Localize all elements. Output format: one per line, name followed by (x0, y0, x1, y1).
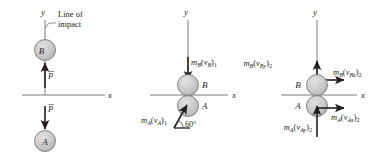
panel2-x-axis-label: x (231, 90, 236, 100)
panel1-x-axis-label: x (107, 90, 112, 100)
figure-svg: y x Line of impact B P P (0, 0, 384, 159)
panel2-ball-b (178, 75, 199, 96)
panel1-impulse-a-symbol: P (47, 104, 53, 114)
panel2-ball-a-label: A (201, 101, 208, 111)
panel3-momentum-ax-label: mA(vAx)2 (331, 112, 360, 123)
collision-momentum-figure: y x Line of impact B P P (0, 0, 384, 159)
panel2-angle-arc (179, 121, 183, 129)
panel3-ball-b-label: B (295, 80, 301, 90)
panel3-ball-a-label: A (294, 101, 301, 111)
panel1-ball-b-label: B (39, 46, 45, 56)
panel3-momentum-bx-label: mB(vBx)2 (333, 67, 362, 78)
panel2-ball-b-label: B (202, 80, 208, 90)
panel-before-impact: y x Line of impact B P P (22, 7, 112, 152)
panel2-momentum-b-label: mB(vB)1 (191, 57, 217, 68)
line-of-impact-leader (45, 23, 56, 28)
panel-initial-momentum: y x mB(vB)1 B A mA(vA)1 60° (141, 7, 236, 129)
line-of-impact-label-1: Line of (58, 9, 83, 19)
panel2-momentum-a-label: mA(vA)1 (141, 115, 167, 126)
panel3-ball-b (307, 75, 328, 96)
line-of-impact-label-2: impact (58, 19, 82, 29)
panel2-angle-label: 60° (185, 120, 196, 129)
panel1-impulse-b-symbol: P (47, 71, 53, 81)
panel3-momentum-by-label: mB(vBy)2 (243, 58, 272, 69)
panel1-impulse-b-label: P (47, 71, 54, 81)
panel3-momentum-ay-label: mA(vAy)2 (284, 122, 312, 133)
panel2-y-axis-label: y (183, 7, 188, 17)
panel1-ball-a-label: A (41, 137, 48, 147)
panel1-y-axis-label: y (40, 7, 45, 17)
panel1-ball-b (35, 40, 56, 61)
panel2-ball-a (178, 96, 199, 117)
panel1-impulse-a-label: P (47, 104, 54, 114)
panel3-x-axis-label: x (360, 90, 365, 100)
panel3-y-axis-label: y (312, 7, 317, 17)
panel-final-momentum: y x mB(vBy)2 mB(vBx)2 B A mA(vAx) (243, 7, 365, 137)
